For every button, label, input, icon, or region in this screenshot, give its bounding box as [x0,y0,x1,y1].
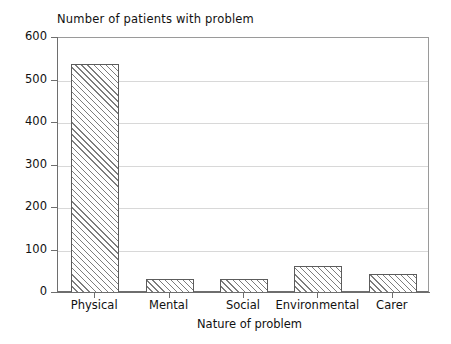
y-tick-label: 100 [5,242,47,256]
y-tick-mark [51,37,57,38]
x-tick-label-physical: Physical [71,298,118,312]
x-tick-label-carer: Carer [376,298,407,312]
x-tick-label-mental: Mental [149,298,188,312]
y-tick-label: 400 [5,114,47,128]
y-axis-line [57,37,58,293]
bar-environmental [294,266,342,293]
plot-area [57,37,429,292]
y-tick-label: 600 [5,29,47,43]
x-tick-label-social: Social [226,298,260,312]
y-tick-label: 500 [5,72,47,86]
bar-physical [71,64,119,294]
y-tick-mark [51,207,57,208]
y-tick-mark [51,250,57,251]
y-tick-label: 300 [5,157,47,171]
x-tick-label-environmental: Environmental [276,298,360,312]
chart-title: Number of patients with problem [57,12,254,26]
y-tick-label: 0 [5,284,47,298]
bar-mental [146,279,194,293]
bar-chart: Number of patients with problem 01002003… [0,0,451,344]
bar-social [220,279,268,293]
x-axis-title: Nature of problem [24,317,451,331]
y-tick-mark [51,165,57,166]
y-tick-label: 200 [5,199,47,213]
y-tick-mark [51,80,57,81]
y-tick-mark [51,122,57,123]
bar-carer [369,274,417,293]
